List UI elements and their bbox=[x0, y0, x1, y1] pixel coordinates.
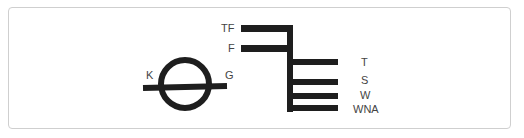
bar-tf bbox=[241, 25, 293, 32]
label-g: G bbox=[225, 69, 234, 81]
label-tf: TF bbox=[221, 22, 234, 34]
branch-symbol bbox=[241, 25, 338, 112]
circle-symbol bbox=[143, 60, 227, 108]
label-wna: WNA bbox=[353, 103, 379, 115]
label-w: W bbox=[360, 89, 370, 101]
label-t: T bbox=[361, 56, 368, 68]
bar-s bbox=[290, 79, 338, 85]
bar-t bbox=[290, 59, 338, 65]
bar-wna bbox=[290, 105, 338, 111]
label-f: F bbox=[228, 42, 235, 54]
bar-f bbox=[241, 45, 289, 52]
horizontal-bar bbox=[143, 86, 227, 88]
diagram-canvas bbox=[0, 0, 524, 138]
label-s: S bbox=[361, 74, 368, 86]
bar-w bbox=[290, 93, 338, 99]
label-k: K bbox=[146, 69, 153, 81]
